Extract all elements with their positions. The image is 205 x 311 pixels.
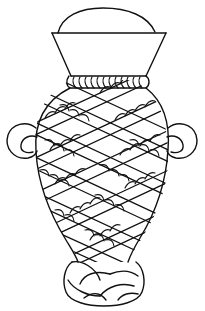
right-handle (167, 124, 197, 158)
left-handle (7, 124, 37, 158)
flared-neck (52, 33, 166, 76)
twisted-foot (64, 262, 144, 306)
dome-lid (58, 8, 155, 33)
body-lattice (16, 70, 205, 285)
vase-illustration: Line drawing of a two-handled vase with … (0, 0, 205, 311)
